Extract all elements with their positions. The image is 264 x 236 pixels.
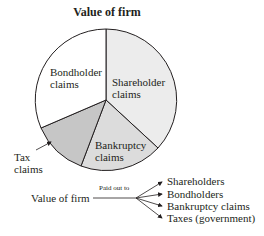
label-line: Bankruptcy <box>95 139 146 151</box>
flow-target-bondholders: Bondholders <box>167 188 223 200</box>
tax-pointer-arrow <box>36 142 51 150</box>
flow-source: Value of firm <box>31 192 90 204</box>
label-line: Bondholder <box>50 66 102 78</box>
label-line: claims <box>50 78 102 90</box>
label-line: claims <box>112 88 165 100</box>
label-line: Shareholder <box>112 76 165 88</box>
label-line: claims <box>95 151 146 163</box>
label-line: claims <box>14 163 43 175</box>
flow-arrow-3 <box>136 198 162 206</box>
flow-arrow-4 <box>136 198 162 218</box>
flow-target-bankruptcy: Bankruptcy claims <box>167 200 250 212</box>
label-bondholder: Bondholder claims <box>50 66 102 90</box>
flow-connector-label: Paid out to <box>99 184 129 192</box>
flow-target-shareholders: Shareholders <box>167 175 224 187</box>
flow-target-taxes: Taxes (government) <box>167 212 255 224</box>
label-shareholder: Shareholder claims <box>112 76 165 100</box>
label-tax: Tax claims <box>14 151 43 175</box>
label-bankruptcy: Bankruptcy claims <box>95 139 146 163</box>
label-line: Tax <box>14 151 43 163</box>
